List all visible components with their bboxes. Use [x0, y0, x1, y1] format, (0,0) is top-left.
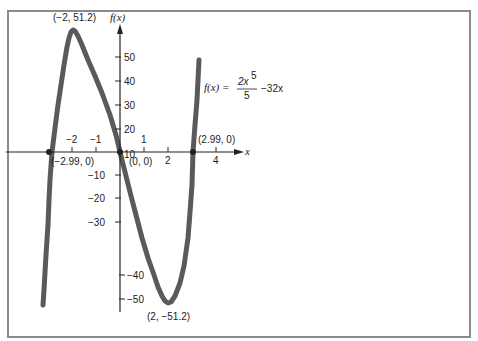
x-axis-arrow-icon [234, 149, 244, 155]
svg-text:5: 5 [251, 70, 257, 81]
y-tick-label: 30 [124, 100, 136, 111]
x-tick-label: −1 [90, 134, 102, 145]
function-equation: f(x) = 2x 5 5 −32x [204, 70, 283, 101]
y-tick-label: 50 [124, 52, 136, 63]
svg-text:2x: 2x [237, 76, 250, 87]
root-positive-label: (2.99, 0) [198, 134, 235, 145]
y-axis-arrow-icon [117, 24, 123, 34]
y-tick-label: −20 [88, 193, 105, 204]
y-tick-label: 20 [124, 124, 136, 135]
function-curve [43, 30, 199, 305]
min-point-label: (2, −51.2) [147, 311, 190, 322]
y-tick-label: −40 [127, 270, 144, 281]
svg-text:−32x: −32x [261, 83, 283, 94]
root-point-positive [190, 149, 196, 155]
root-point-origin [117, 149, 123, 155]
root-negative-label: (−2.99, 0) [51, 156, 94, 167]
y-tick-label: −50 [127, 294, 144, 305]
svg-text:5: 5 [244, 90, 250, 101]
x-axis-label: x [244, 145, 250, 157]
root-origin-label: (0, 0) [129, 156, 152, 167]
function-plot: f(x) x −2 −1 1 2 4 50 40 30 20 10 −10 −2… [0, 0, 478, 341]
y-tick-label: −10 [88, 170, 105, 181]
x-tick-label: 4 [213, 155, 219, 166]
x-tick-label: 1 [141, 134, 147, 145]
x-tick-label: −2 [66, 134, 78, 145]
root-point-negative [46, 149, 52, 155]
svg-text:f(x) =: f(x) = [204, 81, 229, 94]
y-tick-label: 40 [124, 76, 136, 87]
x-tick-label: 2 [165, 155, 171, 166]
y-axis-label: f(x) [110, 11, 126, 24]
max-point-label: (−2, 51.2) [53, 12, 96, 23]
y-tick-label: −30 [88, 217, 105, 228]
